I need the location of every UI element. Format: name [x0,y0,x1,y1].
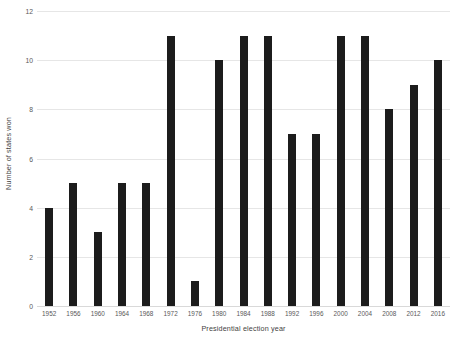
y-tick-label-8: 8 [29,106,33,113]
x-axis-title: Presidential election year [37,324,450,333]
y-tick-label-12: 12 [25,8,33,15]
bar-chart: Number of states won 024681012 195219561… [0,0,459,342]
bar-1976 [191,281,199,306]
x-tick-label-2004: 2004 [358,310,372,317]
y-tick-label-0: 0 [29,303,33,310]
x-tick-label-1964: 1964 [115,310,129,317]
x-tick-label-1988: 1988 [261,310,275,317]
y-axis-title: Number of states won [0,0,16,306]
x-tick-label-1956: 1956 [66,310,80,317]
x-tick-label-1992: 1992 [285,310,299,317]
bar-1992 [288,134,296,306]
x-tick-label-1996: 1996 [309,310,323,317]
bar-2012 [410,85,418,306]
bar-1964 [118,183,126,306]
x-tick-label-1976: 1976 [188,310,202,317]
y-axis-title-label: Number of states won [4,117,13,190]
x-axis-tick-labels: 1952195619601964196819721976198019841988… [37,310,450,322]
bar-1980 [215,60,223,306]
bar-1960 [94,232,102,306]
bar-2016 [434,60,442,306]
bars-layer [37,11,450,306]
bar-2000 [337,36,345,306]
x-tick-label-2008: 2008 [382,310,396,317]
gridline-0: 0 [37,306,450,307]
bar-1972 [167,36,175,306]
bar-1956 [69,183,77,306]
y-tick-label-6: 6 [29,155,33,162]
bar-2004 [361,36,369,306]
bar-1996 [312,134,320,306]
bar-1968 [142,183,150,306]
bar-2008 [385,109,393,306]
x-tick-label-2000: 2000 [334,310,348,317]
y-tick-label-4: 4 [29,204,33,211]
y-tick-label-2: 2 [29,253,33,260]
x-tick-label-1972: 1972 [164,310,178,317]
x-tick-label-1960: 1960 [91,310,105,317]
y-tick-label-10: 10 [25,57,33,64]
bar-1988 [264,36,272,306]
x-tick-label-2012: 2012 [406,310,420,317]
bar-1952 [45,208,53,306]
x-tick-label-1984: 1984 [236,310,250,317]
x-tick-label-1968: 1968 [139,310,153,317]
x-tick-label-1980: 1980 [212,310,226,317]
x-tick-label-2016: 2016 [431,310,445,317]
bar-1984 [240,36,248,306]
plot-area: 024681012 [37,11,450,306]
x-tick-label-1952: 1952 [42,310,56,317]
